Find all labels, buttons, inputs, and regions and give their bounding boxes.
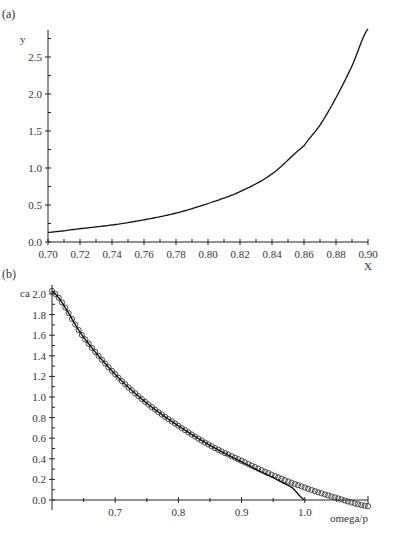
y-tick-label: 0.0 — [28, 236, 42, 248]
x-tick-label: 0.88 — [326, 248, 346, 260]
series-marker — [289, 480, 294, 485]
y-tick-label: 1.0 — [32, 391, 46, 403]
series-marker — [332, 495, 337, 500]
series-marker — [282, 478, 287, 483]
y-tick-label: 0.8 — [32, 412, 46, 424]
series-marker — [292, 481, 297, 486]
series-marker — [365, 504, 370, 509]
panel-a-line-chart: (a)yX0.00.51.01.52.02.50.700.720.740.760… — [2, 7, 378, 272]
x-tick-label: 1.0 — [298, 506, 312, 518]
series-marker — [352, 501, 357, 506]
x-tick-label: 0.84 — [262, 248, 282, 260]
chart-figure: (a)yX0.00.51.01.52.02.50.700.720.740.760… — [0, 0, 395, 540]
series-marker — [349, 500, 354, 505]
x-tick-label: 0.8 — [172, 506, 186, 518]
y-tick-label: 2.0 — [32, 288, 46, 300]
y-tick-label: 0.6 — [32, 432, 46, 444]
series-marker — [319, 491, 324, 496]
x-tick-label: 0.7 — [108, 506, 122, 518]
y-tick-label: 1.6 — [32, 329, 46, 341]
x-tick-label: 0.90 — [358, 248, 378, 260]
series-marker — [339, 497, 344, 502]
series-marker — [299, 484, 304, 489]
series-marker — [286, 479, 291, 484]
series-marker — [296, 483, 301, 488]
y-axis-label: ca — [20, 287, 30, 299]
series-marker — [326, 493, 331, 498]
y-tick-label: 0.0 — [32, 494, 46, 506]
series-marker — [329, 494, 334, 499]
series-marker — [306, 486, 311, 491]
y-tick-label: 0.5 — [28, 199, 42, 211]
y-tick-label: 1.0 — [28, 162, 42, 174]
x-tick-label: 0.74 — [102, 248, 122, 260]
series-line — [48, 29, 368, 233]
x-tick-label: 0.9 — [235, 506, 249, 518]
x-axis-label: X — [364, 260, 372, 272]
y-tick-label: 0.2 — [32, 473, 46, 485]
x-axis-label: omega/p — [330, 512, 368, 524]
y-tick-label: 1.2 — [32, 370, 46, 382]
panel-label-b: (b) — [2, 267, 16, 281]
series-line — [52, 291, 305, 500]
x-tick-label: 0.86 — [294, 248, 314, 260]
series-marker — [316, 490, 321, 495]
x-tick-label: 0.78 — [166, 248, 186, 260]
x-tick-label: 0.72 — [70, 248, 89, 260]
y-tick-label: 2.0 — [28, 88, 42, 100]
series-marker — [309, 487, 314, 492]
y-tick-label: 0.4 — [32, 453, 46, 465]
y-tick-label: 1.5 — [28, 125, 42, 137]
series-marker — [312, 489, 317, 494]
panel-b-line-chart: (b)caomega/p0.00.20.40.60.81.01.21.41.61… — [2, 267, 371, 524]
y-tick-label: 1.8 — [32, 309, 46, 321]
x-tick-label: 0.80 — [198, 248, 218, 260]
x-tick-label: 0.82 — [230, 248, 249, 260]
panel-label-a: (a) — [2, 7, 15, 21]
x-tick-label: 0.76 — [134, 248, 154, 260]
series-marker — [302, 485, 307, 490]
y-tick-label: 1.4 — [32, 350, 46, 362]
x-tick-label: 0.70 — [38, 248, 58, 260]
y-tick-label: 2.5 — [28, 51, 42, 63]
series-marker — [322, 492, 327, 497]
y-axis-label: y — [20, 33, 26, 45]
